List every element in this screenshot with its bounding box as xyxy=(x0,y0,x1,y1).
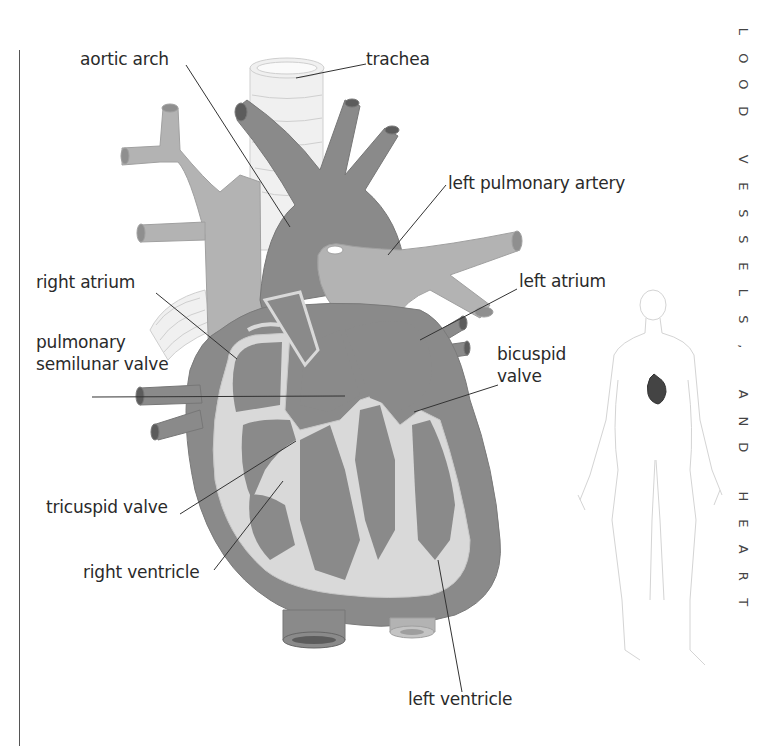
label-trachea: trachea xyxy=(366,48,430,70)
side-title-letter: T xyxy=(730,588,757,618)
side-title-letter: S xyxy=(730,224,757,254)
label-left-atrium: left atrium xyxy=(519,270,606,292)
inset-heart-icon xyxy=(647,374,666,404)
label-pulmonary-semilunar-valve: pulmonary semilunar valve xyxy=(36,331,168,375)
side-title-letter: V xyxy=(730,145,757,175)
heart-body xyxy=(186,292,500,626)
label-aortic-arch: aortic arch xyxy=(80,48,169,70)
label-bicuspid-valve-line1: bicuspid xyxy=(497,343,566,365)
side-title-letter: H xyxy=(730,481,757,511)
label-right-atrium: right atrium xyxy=(36,271,135,293)
human-body-inset xyxy=(578,290,722,665)
side-title-letter: E xyxy=(730,171,757,201)
side-title-letter: L xyxy=(730,16,757,46)
side-title-letter: E xyxy=(730,508,757,538)
side-title-letter: L xyxy=(730,278,757,308)
label-tricuspid-valve: tricuspid valve xyxy=(46,496,168,518)
label-pulmonary-semilunar-valve-line2: semilunar valve xyxy=(36,353,168,375)
side-title-letter: O xyxy=(730,69,757,99)
side-title-letter: A xyxy=(730,534,757,564)
label-bicuspid-valve-line2: valve xyxy=(497,365,566,387)
label-pulmonary-semilunar-valve-line1: pulmonary xyxy=(36,331,168,353)
side-chapter-title: LOODVESSELS,ANDHEART xyxy=(728,18,758,616)
label-left-ventricle: left ventricle xyxy=(408,688,512,710)
label-bicuspid-valve: bicuspid valve xyxy=(497,343,566,387)
label-left-pulmonary-artery: left pulmonary artery xyxy=(448,172,625,194)
label-right-ventricle: right ventricle xyxy=(83,561,200,583)
side-title-letter: A xyxy=(730,379,757,409)
side-title-letter: S xyxy=(730,304,757,334)
